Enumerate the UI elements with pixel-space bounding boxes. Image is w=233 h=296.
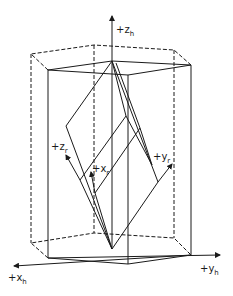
crystal-axes-diagram: +zh +xh +yh +zr +xr +yr xyxy=(0,0,233,296)
diagram-canvas: +zh +xh +yh +zr +xr +yr xyxy=(0,0,233,296)
z-h-label: +zh xyxy=(116,24,134,38)
x-r-label: +xr xyxy=(92,163,109,177)
y-h-axis xyxy=(48,255,220,258)
x-h-label: +xh xyxy=(8,272,27,286)
y-r-label: +yr xyxy=(153,151,170,165)
y-h-label: +yh xyxy=(200,263,219,277)
z-r-label: +zr xyxy=(51,141,68,155)
x-r-axis xyxy=(91,172,95,193)
y-r-axis xyxy=(158,164,172,182)
